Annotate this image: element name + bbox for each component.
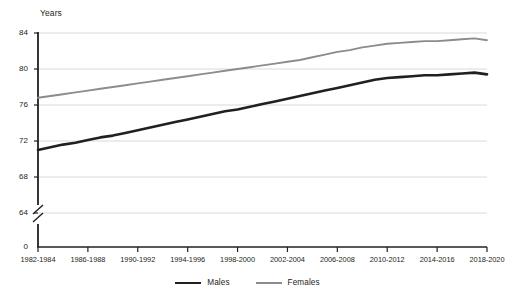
y-tick-label-64: 64: [2, 208, 28, 217]
legend-label-males: Males: [207, 278, 229, 287]
gridlines: [38, 33, 487, 213]
y-tick-label-72: 72: [2, 136, 28, 145]
legend-item-females[interactable]: Females: [256, 278, 320, 287]
y-tick-label-84: 84: [2, 28, 28, 37]
y-tick-label-76: 76: [2, 100, 28, 109]
x-axis-tick-marks: [38, 247, 487, 252]
y-tick-label-68: 68: [2, 172, 28, 181]
data-series-lines: [38, 38, 487, 150]
legend-item-males[interactable]: Males: [175, 278, 229, 287]
axis-lines: [37, 32, 487, 247]
legend-label-females: Females: [288, 278, 320, 287]
x-tick-label-2018-2020: 2018-2020: [458, 255, 509, 264]
legend-swatch-females-icon: [256, 282, 282, 284]
legend-swatch-males-icon: [175, 282, 201, 284]
y-tick-label-80: 80: [2, 64, 28, 73]
y-tick-label-0: 0: [2, 242, 28, 251]
chart-legend: Males Females: [0, 278, 495, 287]
